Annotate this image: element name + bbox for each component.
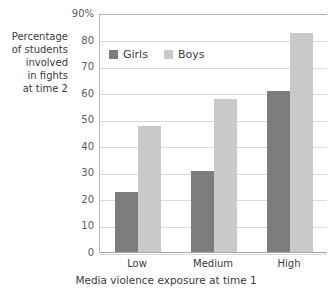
y-tick-label-90: 90%	[72, 9, 94, 19]
y-tick-label-40: 40	[81, 142, 94, 152]
bar-chart: Percentage of students involved in fight…	[0, 0, 332, 289]
bar-group-high	[252, 15, 328, 253]
bar-girls-high	[267, 91, 290, 253]
y-tick-label-10: 10	[81, 221, 94, 231]
y-tick-label-30: 30	[81, 168, 94, 178]
x-axis-title: Media violence exposure at time 1	[0, 274, 332, 286]
x-tick-label-medium: Medium	[193, 258, 233, 269]
x-axis-line	[100, 252, 327, 253]
x-tick-label-high: High	[278, 258, 301, 269]
legend-swatch-girls-icon	[109, 50, 118, 59]
y-tick-label-60: 60	[81, 89, 94, 99]
gridline-0	[100, 254, 327, 255]
y-axis-ticks: 0102030405060708090%	[58, 14, 98, 253]
y-tick-label-20: 20	[81, 195, 94, 205]
x-axis-ticks: LowMediumHigh	[99, 258, 327, 272]
bar-girls-medium	[191, 171, 214, 253]
legend-label-boys: Boys	[178, 48, 205, 61]
legend-label-girls: Girls	[123, 48, 148, 61]
y-tick-label-80: 80	[81, 36, 94, 46]
y-tick-label-50: 50	[81, 115, 94, 125]
x-tick-label-low: Low	[127, 258, 147, 269]
legend-item-girls: Girls	[109, 48, 148, 61]
bar-boys-high	[290, 33, 313, 253]
y-tick-label-70: 70	[81, 62, 94, 72]
y-tick-label-0: 0	[88, 248, 94, 258]
legend-item-boys: Boys	[164, 48, 205, 61]
legend: Girls Boys	[109, 48, 204, 61]
bar-boys-medium	[214, 99, 237, 253]
bar-boys-low	[138, 126, 161, 253]
bar-girls-low	[115, 192, 138, 253]
legend-swatch-boys-icon	[164, 50, 173, 59]
